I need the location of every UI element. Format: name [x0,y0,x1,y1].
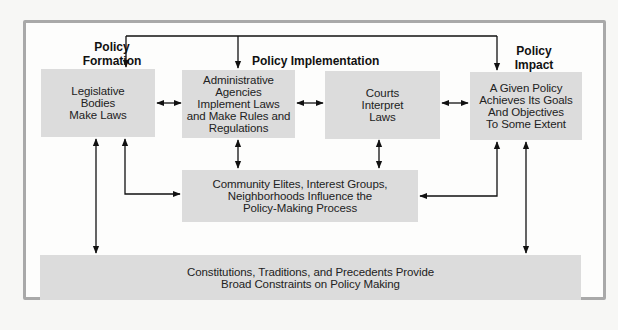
connector-arrows [0,0,618,330]
arrow-legislative-community [125,139,180,194]
arrow-impact-community [420,142,497,196]
